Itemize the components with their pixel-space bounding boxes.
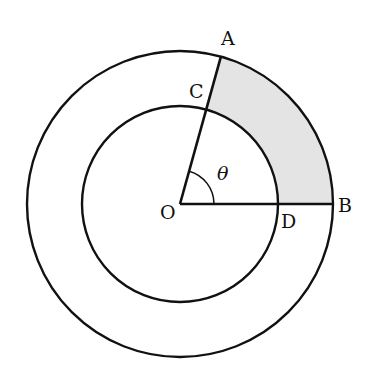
concentric-circles-diagram: A B C D O θ [0,0,368,375]
label-B: B [338,194,352,216]
segment-OA [180,57,221,204]
label-C: C [189,80,204,102]
label-theta: θ [217,162,229,184]
label-O: O [160,201,176,223]
angle-arc [189,171,214,204]
label-D: D [281,210,296,232]
label-A: A [220,27,235,49]
